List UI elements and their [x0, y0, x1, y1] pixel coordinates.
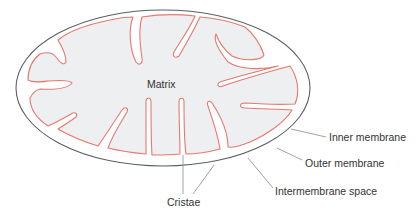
outer-membrane-label: Outer membrane	[305, 157, 385, 169]
matrix-label: Matrix	[147, 78, 176, 90]
mitochondrion-diagram: Matrix Inner membrane Outer membrane Int…	[0, 0, 420, 219]
cristae-leader-2	[193, 165, 214, 194]
outer-membrane-leader	[277, 148, 302, 160]
cristae-label: Cristae	[167, 196, 200, 208]
intermembrane-space-label: Intermembrane space	[275, 185, 377, 197]
intermembrane-space-leader	[248, 158, 273, 188]
inner-membrane-leader	[291, 129, 326, 137]
inner-membrane-label: Inner membrane	[329, 131, 406, 143]
